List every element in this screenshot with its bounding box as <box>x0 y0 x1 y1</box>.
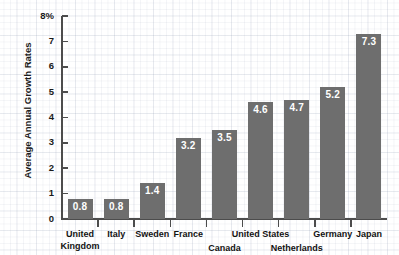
y-axis-tick-label: 1 <box>28 188 54 198</box>
bar-value-label: 7.3 <box>356 36 381 47</box>
x-axis-tick-mark <box>206 219 208 227</box>
bar: 7.3 <box>356 34 381 219</box>
y-axis-title: Average Annual Growth Rates <box>22 21 33 201</box>
bar-value-label: 4.7 <box>284 102 309 113</box>
x-axis-tick-mark <box>170 219 172 227</box>
x-axis-tick-mark <box>350 219 352 227</box>
x-axis-tick-mark <box>278 219 280 227</box>
y-axis-tick-label: 2 <box>28 163 54 173</box>
y-axis-tick-label: 6 <box>28 61 54 71</box>
bar: 3.2 <box>176 138 201 219</box>
bar: 3.5 <box>212 130 237 219</box>
bar-chart: Average Annual Growth Rates 8%76543210 0… <box>0 0 399 255</box>
y-axis-tick-label: 3 <box>28 137 54 147</box>
x-axis-category-label: Netherlands <box>260 243 334 255</box>
bar-value-label: 3.2 <box>176 140 201 151</box>
bar: 4.7 <box>284 100 309 219</box>
bar-value-label: 3.5 <box>212 132 237 143</box>
bar: 0.8 <box>68 199 93 219</box>
y-axis-tick-label: 8% <box>28 11 54 21</box>
bar: 1.4 <box>140 183 165 219</box>
x-axis-category-label: Canada <box>188 243 262 255</box>
bar-value-label: 0.8 <box>68 201 93 212</box>
x-axis-tick-mark <box>242 219 244 227</box>
bar: 5.2 <box>320 87 345 219</box>
x-axis-tick-mark <box>133 219 135 227</box>
bar-value-label: 0.8 <box>104 201 129 212</box>
y-axis-tick-label: 5 <box>28 87 54 97</box>
y-axis-tick-label: 4 <box>28 112 54 122</box>
bar-value-label: 1.4 <box>140 185 165 196</box>
y-axis-tick-label: 7 <box>28 36 54 46</box>
x-axis-category-label: United States <box>224 229 298 241</box>
x-axis-category-label: Japan <box>332 229 399 241</box>
bar: 4.6 <box>248 102 273 219</box>
x-axis-category-label: France <box>151 229 225 241</box>
bar-value-label: 4.6 <box>248 104 273 115</box>
x-axis-tick-mark <box>314 219 316 227</box>
y-axis-tick-label: 0 <box>28 214 54 224</box>
bar: 0.8 <box>104 199 129 219</box>
bar-value-label: 5.2 <box>320 89 345 100</box>
x-axis-tick-mark <box>97 219 99 227</box>
plot-area: 0.80.81.43.23.54.64.75.27.3 <box>62 16 387 219</box>
